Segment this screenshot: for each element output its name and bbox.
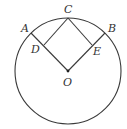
label-b: B	[107, 22, 116, 35]
geometry-diagram: C A B D E O	[0, 0, 127, 129]
label-a: A	[20, 22, 29, 35]
center-point-o	[67, 70, 70, 73]
label-d: D	[30, 43, 40, 56]
label-c: C	[64, 3, 73, 16]
label-o: O	[63, 76, 72, 89]
label-e: E	[92, 45, 101, 58]
